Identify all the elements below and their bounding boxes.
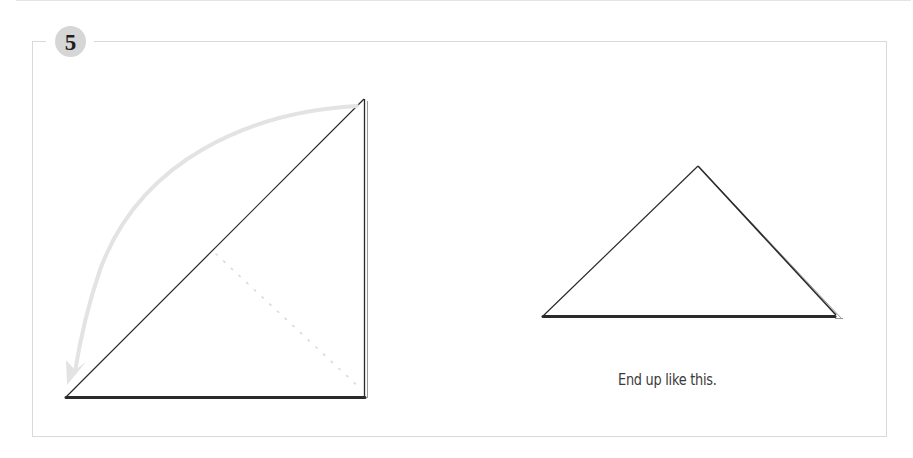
result-caption: End up like this.: [618, 371, 717, 389]
fold-diagram: [0, 0, 913, 458]
after-triangle: [543, 166, 843, 319]
